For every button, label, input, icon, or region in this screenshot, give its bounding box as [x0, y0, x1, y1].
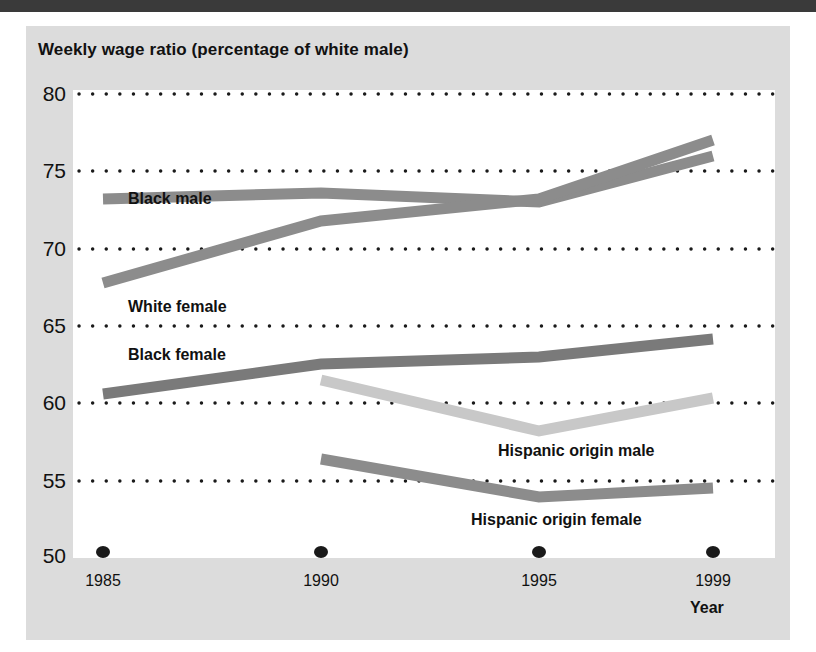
x-axis-title: Year: [690, 599, 724, 617]
ytick-label-65: 65: [26, 314, 66, 338]
series-label-hispanic-origin-female: Hispanic origin female: [471, 511, 642, 529]
chart-title: Weekly wage ratio (percentage of white m…: [38, 40, 409, 60]
xtick-label-1999: 1999: [678, 572, 748, 590]
ytick-label-60: 60: [26, 391, 66, 415]
series-line-white-female: [103, 140, 713, 283]
series-label-black-male: Black male: [128, 190, 212, 208]
ytick-label-70: 70: [26, 237, 66, 261]
series-label-hispanic-origin-male: Hispanic origin male: [498, 442, 654, 460]
xtick-label-1985: 1985: [68, 572, 138, 590]
ytick-label-50: 50: [26, 544, 66, 568]
ytick-label-75: 75: [26, 159, 66, 183]
plot-area: Black male White female Black female His…: [73, 90, 775, 558]
series-label-black-female: Black female: [128, 346, 226, 364]
xtick-label-1990: 1990: [286, 572, 356, 590]
series-line-hispanic-origin-male: [321, 380, 713, 431]
series-label-white-female: White female: [128, 298, 227, 316]
series-line-hispanic-origin-female: [321, 459, 713, 497]
x-axis-markers: [96, 546, 720, 558]
ytick-label-55: 55: [26, 469, 66, 493]
marker-1995: [532, 546, 546, 558]
marker-1990: [314, 546, 328, 558]
marker-1985: [96, 546, 110, 558]
xtick-label-1995: 1995: [504, 572, 574, 590]
page-top-bar: [0, 0, 816, 12]
marker-1999: [706, 546, 720, 558]
ytick-label-80: 80: [26, 82, 66, 106]
chart-svg: [73, 90, 775, 558]
figure-panel: Weekly wage ratio (percentage of white m…: [26, 26, 790, 640]
